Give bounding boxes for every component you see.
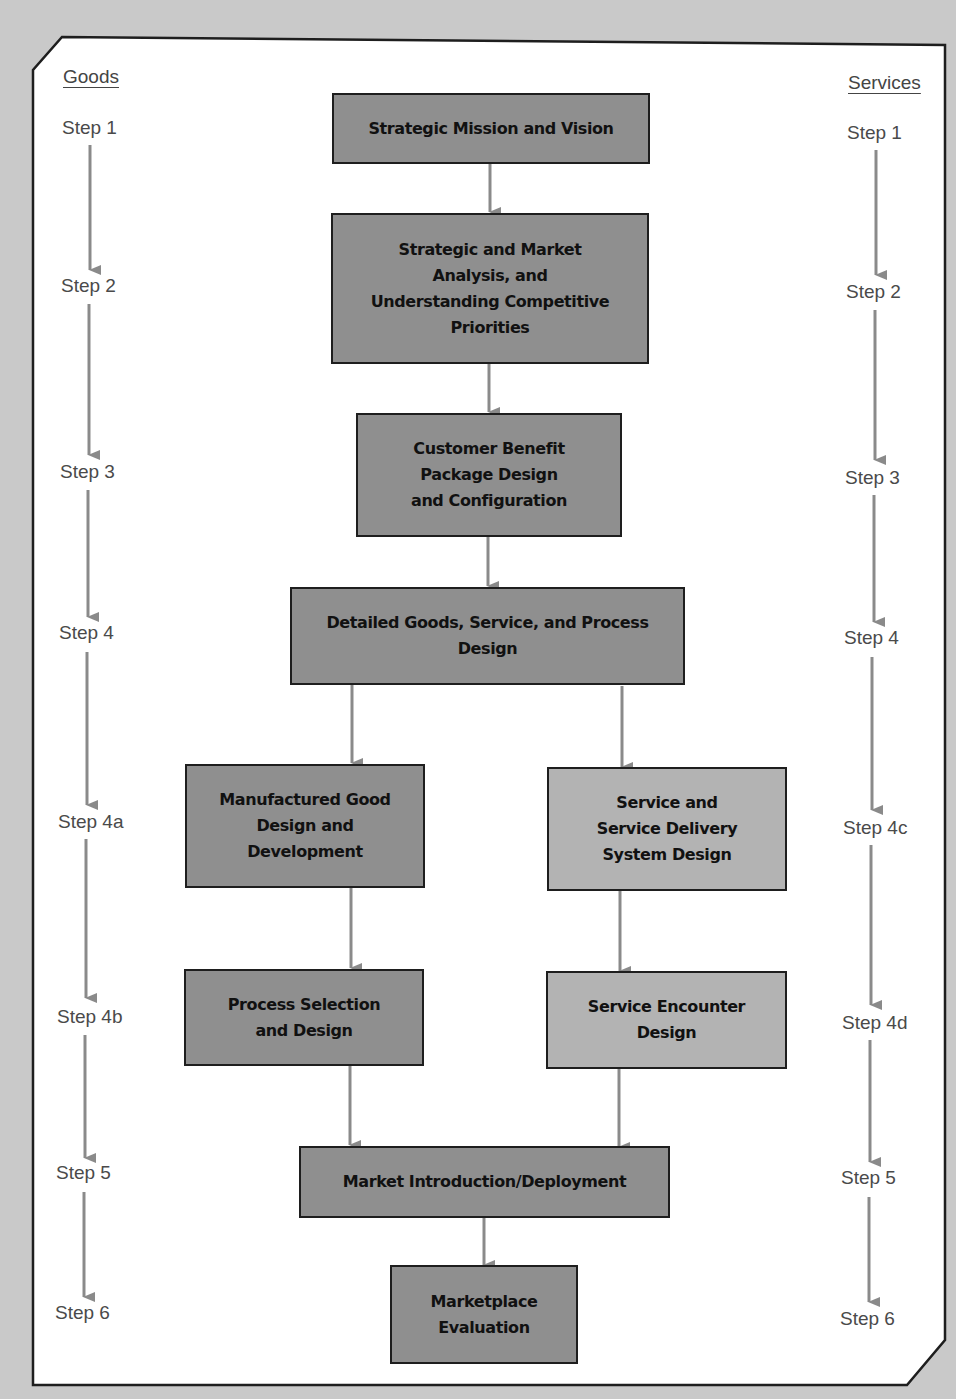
box-line: Process Selection — [228, 992, 380, 1018]
services-step-5: Step 5 — [841, 1167, 896, 1189]
box-line: Marketplace — [431, 1289, 538, 1315]
services-heading: Services — [848, 72, 921, 94]
box-line: Service and — [597, 790, 737, 816]
goods-step-3: Step 3 — [60, 461, 115, 483]
box-line: Strategic and Market — [371, 237, 610, 263]
goods-step-5: Step 5 — [56, 1162, 111, 1184]
box-line: Strategic Mission and Vision — [368, 116, 613, 142]
box-line: Analysis, and — [371, 263, 610, 289]
box-service-delivery-system: Service and Service Delivery System Desi… — [547, 767, 787, 891]
box-customer-benefit-package: Customer Benefit Package Design and Conf… — [356, 413, 622, 537]
box-line: Market Introduction/Deployment — [343, 1169, 627, 1195]
box-line: Package Design — [411, 462, 567, 488]
goods-heading: Goods — [63, 66, 119, 88]
goods-step-2: Step 2 — [61, 275, 116, 297]
services-step-6: Step 6 — [840, 1308, 895, 1330]
box-line: Design — [326, 636, 648, 662]
box-line: Manufactured Good — [219, 787, 390, 813]
box-line: Development — [219, 839, 390, 865]
services-step-1: Step 1 — [847, 122, 902, 144]
box-line: and Design — [228, 1018, 380, 1044]
box-strategic-mission: Strategic Mission and Vision — [332, 93, 650, 164]
box-line: Service Delivery — [597, 816, 737, 842]
box-line: Understanding Competitive — [371, 289, 610, 315]
box-line: and Configuration — [411, 488, 567, 514]
services-step-3: Step 3 — [845, 467, 900, 489]
box-marketplace-evaluation: Marketplace Evaluation — [390, 1265, 578, 1364]
box-line: Priorities — [371, 315, 610, 341]
box-service-encounter: Service Encounter Design — [546, 971, 787, 1069]
box-process-selection: Process Selection and Design — [184, 969, 424, 1066]
box-line: Evaluation — [431, 1315, 538, 1341]
goods-step-1: Step 1 — [62, 117, 117, 139]
box-line: Service Encounter — [588, 994, 745, 1020]
goods-step-4: Step 4 — [59, 622, 114, 644]
services-step-4d: Step 4d — [842, 1012, 908, 1034]
box-detailed-design: Detailed Goods, Service, and Process Des… — [290, 587, 685, 685]
goods-step-6: Step 6 — [55, 1302, 110, 1324]
box-line: System Design — [597, 842, 737, 868]
box-line: Design — [588, 1020, 745, 1046]
services-step-2: Step 2 — [846, 281, 901, 303]
goods-step-4b: Step 4b — [57, 1006, 123, 1028]
box-line: Design and — [219, 813, 390, 839]
services-step-4: Step 4 — [844, 627, 899, 649]
goods-step-4a: Step 4a — [58, 811, 124, 833]
box-market-analysis: Strategic and Market Analysis, and Under… — [331, 213, 649, 364]
box-market-introduction: Market Introduction/Deployment — [299, 1146, 670, 1218]
box-line: Customer Benefit — [411, 436, 567, 462]
box-line: Detailed Goods, Service, and Process — [326, 610, 648, 636]
services-step-4c: Step 4c — [843, 817, 907, 839]
box-manufactured-good: Manufactured Good Design and Development — [185, 764, 425, 888]
